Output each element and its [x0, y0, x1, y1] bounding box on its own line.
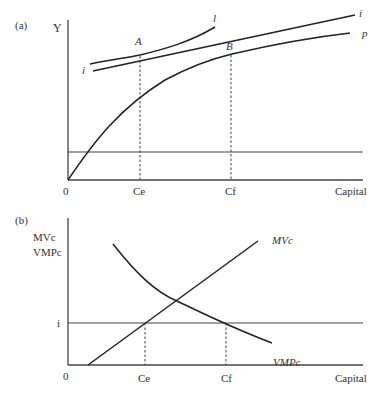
y-axis-label: Y: [53, 21, 62, 35]
origin-label-b: 0: [63, 370, 69, 382]
panel-a: (a) Y A B l i p i 0 Ce Cf Capital: [15, 7, 368, 197]
tick-ce-b: Ce: [138, 372, 150, 384]
diagram-canvas: (a) Y A B l i p i 0 Ce Cf Capital (b) MV…: [0, 0, 380, 395]
curve-p-label: p: [361, 27, 368, 39]
line-i: [93, 15, 355, 71]
panel-b: (b) MVc VMPc i MVc VMPc 0 Ce Cf Capital: [15, 214, 367, 384]
line-i-left-label: i: [82, 64, 85, 76]
x-axis-label-b: Capital: [335, 372, 367, 384]
y-axis-label-mvc: MVc: [33, 231, 56, 243]
panel-b-tag: (b): [15, 214, 28, 227]
curve-mvc-label: MVc: [271, 234, 293, 246]
curve-vmpc: [113, 244, 272, 343]
y-axis-label-vmpc: VMPc: [33, 246, 62, 258]
interest-rate-label: i: [57, 317, 60, 329]
curve-p: [68, 33, 350, 180]
point-a-label: A: [134, 35, 142, 47]
x-axis-label-a: Capital: [335, 185, 367, 197]
curve-mvc: [88, 241, 258, 365]
origin-label-a: 0: [63, 185, 69, 197]
tick-cf-b: Cf: [221, 372, 232, 384]
line-i-right-label: i: [359, 7, 362, 19]
point-b-label: B: [226, 40, 233, 52]
curve-l-label: l: [213, 12, 216, 24]
tick-cf-a: Cf: [225, 185, 236, 197]
panel-a-tag: (a): [15, 19, 28, 32]
curve-vmpc-label: VMPc: [273, 356, 301, 368]
tick-ce-a: Ce: [133, 185, 145, 197]
